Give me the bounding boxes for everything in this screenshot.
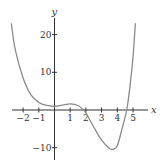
function-curve [11, 23, 135, 149]
x-tick-label: 4 [114, 113, 120, 123]
axes [12, 18, 148, 160]
x-tick-label: 5 [130, 113, 136, 123]
function-plot: −2−1123452010−10 x y [0, 0, 160, 167]
y-tick-label: 20 [40, 30, 52, 40]
x-tick-label: 2 [83, 113, 89, 123]
y-tick-label: 10 [40, 67, 52, 77]
x-tick-label: 1 [67, 113, 73, 123]
x-axis-label: x [151, 104, 157, 115]
y-axis-label: y [51, 6, 58, 17]
x-tick-label: −1 [32, 113, 45, 123]
x-tick-label: −2 [16, 113, 29, 123]
y-tick-label: −10 [33, 143, 52, 153]
x-tick-label: 3 [99, 113, 105, 123]
ticks: −2−1123452010−10 [16, 30, 136, 153]
